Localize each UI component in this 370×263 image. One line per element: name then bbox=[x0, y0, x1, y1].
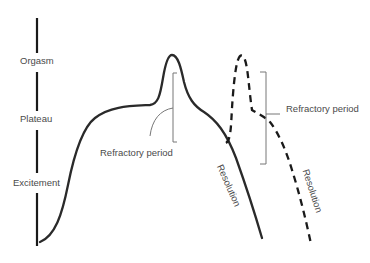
axis-label-orgasm: Orgasm bbox=[20, 56, 54, 66]
dashed-response-curve bbox=[226, 56, 311, 245]
refractory-period-label-1: Refractory period bbox=[100, 148, 173, 158]
refractory-period-label-2: Refractory period bbox=[286, 104, 359, 114]
refractory-bracket-1 bbox=[150, 73, 177, 142]
refractory-bracket-2 bbox=[260, 72, 280, 164]
axis-label-excitement: Excitement bbox=[13, 178, 60, 188]
response-cycle-diagram bbox=[0, 0, 370, 263]
axis-label-plateau: Plateau bbox=[20, 114, 52, 124]
